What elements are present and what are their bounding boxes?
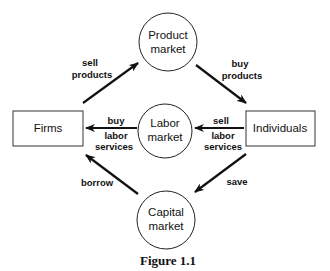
labor-market-label-line2: market bbox=[147, 131, 183, 143]
buy-products-label-line2: products bbox=[222, 70, 263, 81]
individuals-node: Individuals bbox=[246, 111, 315, 146]
product-market-label-line1: Product bbox=[148, 29, 188, 41]
sell-labor-label-line3: services bbox=[204, 141, 242, 152]
labor-market-node: Labor market bbox=[138, 104, 192, 158]
capital-market-node: Capital market bbox=[137, 191, 195, 249]
capital-market-label-line1: Capital bbox=[148, 206, 184, 218]
product-market-label-line2: market bbox=[150, 43, 186, 55]
firms-label: Firms bbox=[34, 122, 63, 134]
product-market-node: Product market bbox=[139, 13, 197, 71]
circular-flow-diagram: Product market Labor market Capital mark… bbox=[0, 0, 330, 271]
buy-labor-label-line3: services bbox=[95, 141, 133, 152]
firms-node: Firms bbox=[13, 111, 83, 146]
capital-market-label-line2: market bbox=[148, 220, 184, 232]
sell-labor-label-line2: labor bbox=[211, 130, 235, 141]
borrow-label: borrow bbox=[81, 177, 114, 188]
individuals-label: Individuals bbox=[253, 122, 308, 134]
figure-caption: Figure 1.1 bbox=[140, 253, 196, 268]
buy-labor-label-line2: labor bbox=[104, 130, 128, 141]
sell-labor-label-line1: sell bbox=[213, 115, 229, 126]
save-label: save bbox=[226, 176, 247, 187]
borrow-arrow bbox=[86, 155, 138, 194]
sell-products-label-line2: products bbox=[72, 69, 113, 80]
labor-market-label-line1: Labor bbox=[150, 117, 180, 129]
buy-labor-label-line1: buy bbox=[108, 115, 126, 126]
buy-products-label-line1: buy bbox=[232, 58, 250, 69]
sell-products-label-line1: sell bbox=[82, 57, 98, 68]
